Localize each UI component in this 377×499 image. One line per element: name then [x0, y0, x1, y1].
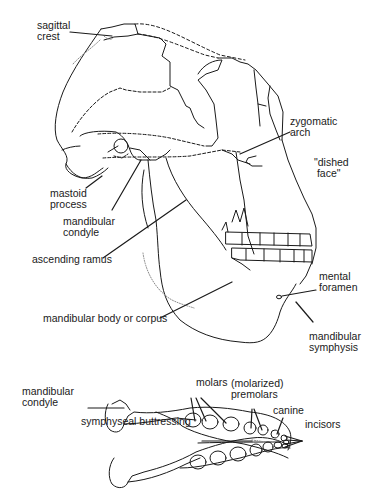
label-molars: molars	[196, 377, 228, 388]
upper-teeth	[226, 232, 312, 246]
mandible-occlusal	[105, 400, 291, 488]
cranium-outline	[55, 24, 283, 179]
label-mental-foramen: mental foramen	[319, 271, 358, 293]
label-sagittal-crest: sagittal crest	[37, 20, 70, 42]
label-symphyseal-buttressing: symphyseal buttressing	[81, 416, 191, 427]
label-mandibular-symphysis: mandibular symphysis	[309, 331, 361, 353]
label-dished-face: "dished face"	[314, 157, 349, 179]
lower-teeth	[232, 248, 312, 284]
label-mandibular-condyle-jaw: mandibular condyle	[22, 386, 74, 408]
label-canine: canine	[273, 405, 304, 416]
label-incisors: incisors	[305, 419, 341, 430]
label-mastoid-process: mastoid process	[50, 188, 87, 210]
label-mandibular-condyle-skull: mandibular condyle	[63, 216, 115, 238]
label-zygomatic-arch: zygomatic arch	[290, 116, 337, 138]
label-molarized-premolars: (molarized) premolars	[231, 378, 284, 400]
label-mandibular-body: mandibular body or corpus	[43, 313, 167, 324]
face-outline	[142, 140, 316, 343]
mental-foramen-shape	[277, 295, 282, 299]
label-ascending-ramus: ascending ramus	[32, 254, 112, 265]
